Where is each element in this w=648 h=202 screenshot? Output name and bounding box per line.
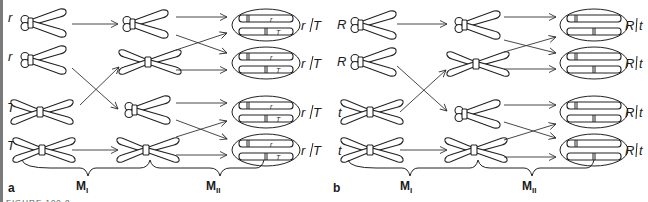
genotype-label: r T — [301, 18, 322, 33]
spore-pair-icon — [560, 9, 628, 41]
svg-text:t: t — [639, 143, 644, 158]
spore-pair-icon — [560, 96, 628, 128]
chromosome-icon — [117, 138, 179, 162]
allele-label: t — [338, 105, 343, 120]
chromosome-icon — [341, 138, 403, 162]
genotype-label: r T — [301, 56, 322, 71]
svg-text:T: T — [313, 105, 322, 120]
chromosome-icon — [125, 96, 170, 124]
chromosome-icon — [455, 11, 500, 39]
chromosome-icon — [11, 100, 73, 124]
allele-label: r — [8, 10, 13, 25]
chromosome-icon — [455, 100, 500, 128]
genotype-label: R t — [625, 18, 644, 33]
chromosome-icon — [351, 11, 396, 39]
svg-text:r: r — [301, 143, 306, 158]
chromosome-icon — [21, 9, 66, 37]
svg-text:t: t — [639, 56, 644, 71]
spore-pair-icon — [232, 96, 300, 128]
allele-mark: T — [276, 67, 281, 74]
spore-pair-icon — [232, 9, 300, 41]
chromosome-icon — [119, 50, 181, 74]
stage-label-m2: MII — [522, 179, 536, 195]
chromosome-icon — [21, 46, 66, 74]
chromosome-icon — [351, 48, 396, 76]
allele-mark: T — [276, 29, 281, 36]
svg-text:R: R — [625, 105, 634, 120]
chromosome-icon — [341, 100, 403, 124]
spore-pair-icon — [560, 47, 628, 79]
svg-text:r: r — [301, 56, 306, 71]
genotype-label: R t — [625, 56, 644, 71]
svg-text:r: r — [301, 105, 306, 120]
svg-text:r: r — [301, 18, 306, 33]
allele-label: r — [8, 49, 13, 64]
allele-label: R — [337, 54, 346, 69]
svg-text:R: R — [625, 18, 634, 33]
chromosome-icon — [13, 138, 75, 162]
panel-label: b — [333, 181, 340, 195]
chromosome-icon — [445, 138, 507, 162]
allele-label: t — [338, 143, 343, 158]
panel-label: a — [8, 181, 15, 195]
allele-mark: T — [276, 154, 281, 161]
stage-label-m1: MI — [76, 179, 88, 195]
stage-label-m1: MI — [400, 179, 412, 195]
svg-text:R: R — [625, 56, 634, 71]
stage-label-m2: MII — [206, 179, 220, 195]
chromosome-icon — [123, 10, 168, 38]
svg-text:T: T — [313, 143, 322, 158]
genotype-label: R t — [625, 105, 644, 120]
genotype-label: R t — [625, 143, 644, 158]
allele-mark: T — [276, 116, 281, 123]
panel-a: r r T T r T r T — [7, 9, 322, 195]
spore-pair-icon — [232, 47, 300, 79]
svg-text:t: t — [639, 105, 644, 120]
genotype-label: r T — [301, 143, 322, 158]
figure-caption: FIGURE 100.8 — [6, 198, 70, 202]
genotype-label: r T — [301, 105, 322, 120]
panel-b: R R t t R t R — [333, 9, 644, 195]
meiosis-diagram: r r T T r T r T — [0, 0, 648, 202]
svg-text:t: t — [639, 18, 644, 33]
chromosome-icon — [447, 52, 509, 76]
allele-label: R — [337, 17, 346, 32]
svg-text:T: T — [313, 18, 322, 33]
svg-text:T: T — [313, 56, 322, 71]
svg-text:R: R — [625, 143, 634, 158]
spore-pair-icon — [232, 134, 300, 166]
